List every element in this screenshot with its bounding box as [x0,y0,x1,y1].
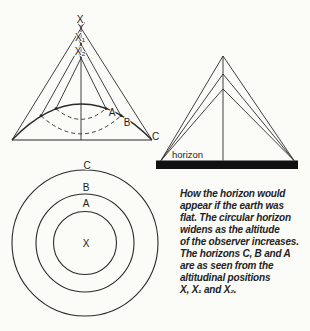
flat-triangle-middle [161,74,294,161]
apex-label-x1: X₁ [75,32,86,43]
caption-line: appear if the earth was [180,200,310,212]
caption-line: widens as the altitude [180,224,310,236]
caption-line: altitudinal positions [180,272,310,284]
caption-line: X, X₁ and X₂. [180,284,310,296]
caption-line: How the horizon would [180,188,310,200]
caption-line: of the observer increases. [180,236,310,248]
caption-text: How the horizon would appear if the eart… [180,188,310,296]
earth-dome-arc [12,104,152,140]
apex-label-x: X [77,14,84,25]
sight-line-x-right [77,22,152,140]
cone-figure: X X₁ X₂ A B C [12,14,159,143]
caption-line: flat. The circular horizon [180,212,310,224]
point-label-a: A [109,107,116,118]
sight-line-x-left [12,22,85,140]
circle-label-x: X [83,238,90,249]
circle-label-b: B [83,182,90,193]
circle-label-c: C [83,160,90,171]
point-label-b: B [124,117,131,128]
caption-line: The horizons C, B and A [180,248,310,260]
apex-label-x2: X₂ [75,46,86,57]
flat-triangle-outer [161,56,294,161]
horizon-label: horizon [172,149,203,160]
concentric-circles-figure: C B A X [12,160,158,316]
point-label-c: C [152,131,159,142]
caption-line: are as seen from the [180,260,310,272]
flat-horizon-figure: horizon [156,56,298,169]
horizon-bar [156,161,298,170]
circle-label-a: A [83,198,90,209]
book-diagram-page: X X₁ X₂ A B C horizon C B A [0,0,310,331]
